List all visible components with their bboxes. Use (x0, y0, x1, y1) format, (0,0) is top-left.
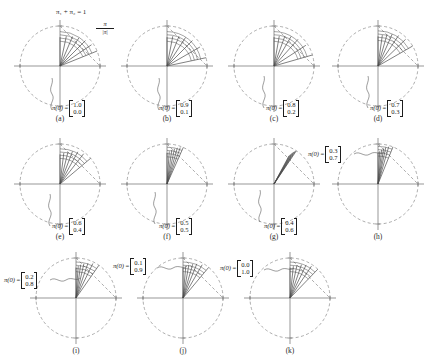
panel-k-pi0-label: π(0)=0.01.0 (220, 260, 253, 277)
pi0-symbol: π(0) (370, 105, 381, 112)
panel-e-plot (6, 132, 114, 232)
pi0-components: 0.01.0 (241, 260, 250, 277)
label-leader-line (157, 266, 187, 269)
label-leader-line (263, 76, 266, 108)
equals-sign: = (279, 105, 283, 112)
pi0-symbol: π(0) (159, 223, 170, 230)
panel-j-pi0-label: π(0)=0.10.9 (113, 258, 146, 275)
pi0-vector: 0.20.8 (21, 272, 37, 289)
equals-sign: = (65, 223, 69, 230)
panel-j-caption: (j) (129, 346, 237, 355)
pi0-component: 0.8 (287, 101, 295, 109)
label-leader-line (49, 194, 52, 226)
panel-f: π(0)=0.50.5(f) (113, 132, 221, 247)
panel-c-caption: (c) (220, 114, 328, 123)
panel-f-caption: (f) (113, 232, 221, 241)
label-leader-line (264, 268, 294, 271)
equals-sign: = (126, 263, 130, 270)
pi0-symbol: π(0) (266, 105, 277, 112)
equals-sign: = (65, 105, 69, 112)
pi-ray (274, 151, 296, 184)
panel-g-caption: (g) (220, 232, 328, 241)
equals-sign: = (17, 277, 21, 284)
bracket-right (250, 260, 254, 277)
panel-f-plot (113, 132, 221, 232)
pi0-component: 0.5 (180, 219, 188, 227)
pi0-symbol: π(0) (113, 263, 124, 270)
panel-a-plot (6, 14, 114, 114)
fan-arc (167, 32, 201, 59)
equals-sign: = (383, 105, 387, 112)
pi0-component: 0.4 (285, 219, 293, 227)
panel-c-plot (220, 14, 328, 114)
pi-ray (290, 269, 318, 298)
pi0-component: 0.3 (329, 147, 337, 155)
pi0-symbol: π(0) (52, 223, 63, 230)
pi0-components: 0.20.8 (25, 272, 34, 289)
panel-b-caption: (b) (113, 114, 221, 123)
pi-ray (167, 58, 206, 66)
fan-arc (378, 146, 392, 149)
panel-h-pi0-label: π(0)=0.30.7 (308, 146, 341, 163)
pi0-component: 0.0 (241, 261, 249, 269)
panel-d-caption: (d) (324, 114, 432, 123)
pi0-vector: 0.10.9 (130, 258, 146, 275)
pi0-component: 0.9 (134, 266, 142, 274)
pi0-component: 0.8 (25, 280, 33, 288)
equals-sign: = (277, 223, 281, 230)
panel-e: π(0)=0.60.4(e) (6, 132, 114, 247)
pi0-symbol: π(0) (308, 151, 319, 158)
equals-sign: = (172, 223, 176, 230)
panel-h-caption: (h) (324, 232, 432, 241)
pi0-symbol: π(0) (52, 105, 63, 112)
pi-ray (60, 41, 85, 66)
panel-k: π(0)=0.01.0(k) (236, 246, 344, 355)
pi0-vector: 0.30.7 (325, 146, 341, 163)
panel-i-pi0-label: π(0)=0.20.8 (4, 272, 37, 289)
pi-ray (167, 36, 179, 66)
label-leader-line (50, 278, 80, 281)
pi0-component: 0.7 (391, 101, 399, 109)
pi0-component: 0.6 (73, 219, 81, 227)
pi0-component: 1.0 (73, 101, 81, 109)
label-leader-line (259, 190, 262, 222)
bracket-right (34, 272, 38, 289)
pi0-component: 0.2 (25, 273, 33, 281)
bracket-right (143, 258, 147, 275)
equals-sign: = (172, 105, 176, 112)
pi0-component: 0.1 (134, 259, 142, 267)
equals-sign: = (233, 265, 237, 272)
simplex-line (60, 144, 100, 184)
pi0-vector: 0.01.0 (237, 260, 253, 277)
panel-a: π(0)=1.00.0(a) (6, 14, 114, 129)
pi0-component: 1.0 (241, 268, 249, 276)
bracket-right (338, 146, 342, 163)
pi0-symbol: π(0) (264, 223, 275, 230)
pi0-components: 0.10.9 (134, 258, 143, 275)
panel-d-plot (324, 14, 432, 114)
panel-d: π(0)=0.70.3(d) (324, 14, 432, 129)
simplex-line (76, 258, 116, 298)
pi-ray (290, 265, 306, 298)
pi0-components: 0.30.7 (329, 146, 338, 163)
label-leader-line (367, 76, 370, 108)
panel-h: π(0)=0.30.7(h) (324, 132, 432, 247)
pi0-symbol: π(0) (159, 105, 170, 112)
pi0-component: 0.7 (329, 154, 337, 162)
label-leader-line (154, 192, 157, 224)
pi0-symbol: π(0) (220, 265, 231, 272)
figure-canvas: π₁ + π₂ = 1 π |π| π(0)=1.00.0(a)π(0)=0.9… (0, 0, 433, 355)
panel-a-caption: (a) (6, 114, 114, 123)
panel-e-caption: (e) (6, 232, 114, 241)
pi0-symbol: π(0) (4, 277, 15, 284)
equals-sign: = (321, 151, 325, 158)
fan-arc (378, 31, 408, 49)
pi0-component: 0.9 (180, 101, 188, 109)
pi-ray (274, 36, 285, 66)
panel-k-caption: (k) (236, 346, 344, 355)
pi-ray (378, 35, 399, 66)
panel-b: π(0)=0.90.1(b) (113, 14, 221, 129)
panel-c: π(0)=0.80.2(c) (220, 14, 328, 129)
panel-b-plot (113, 14, 221, 114)
panel-i-caption: (i) (22, 346, 130, 355)
